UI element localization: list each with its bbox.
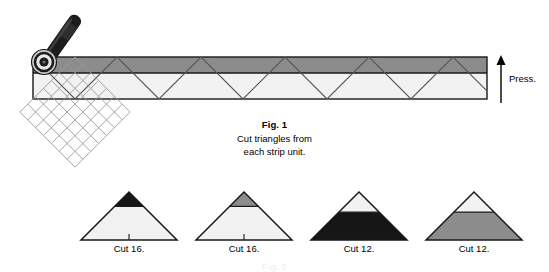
- cut-triangle-2: [196, 192, 292, 240]
- strip-dark-band: [33, 57, 487, 73]
- strip-unit: [0, 57, 495, 99]
- triangle-2-tip: [196, 192, 292, 206]
- next-figure-label: Fig. 2: [0, 261, 549, 272]
- triangle-4-tip: [426, 192, 522, 212]
- figure-caption-line-1: Cut triangles from: [0, 133, 549, 144]
- cut-triangle-3: [311, 192, 407, 240]
- press-label: Press.: [509, 73, 536, 84]
- figure-caption-title: Fig. 1: [0, 119, 549, 130]
- cut-triangle-4: [426, 192, 522, 240]
- cutter-blade-center: [42, 60, 45, 63]
- figure-caption-line-2: each strip unit.: [0, 146, 549, 157]
- cut-triangle-3-label: Cut 12.: [311, 243, 407, 254]
- cut-triangle-4-label: Cut 12.: [426, 243, 522, 254]
- strip-light-band: [33, 73, 487, 99]
- cut-triangle-1: [81, 192, 177, 240]
- triangle-1-tip: [81, 192, 177, 206]
- cut-triangle-1-label: Cut 16.: [81, 243, 177, 254]
- triangle-3-tip: [311, 192, 407, 212]
- cut-triangle-2-label: Cut 16.: [196, 243, 292, 254]
- press-arrow: [497, 55, 506, 103]
- press-arrow-head: [497, 55, 506, 65]
